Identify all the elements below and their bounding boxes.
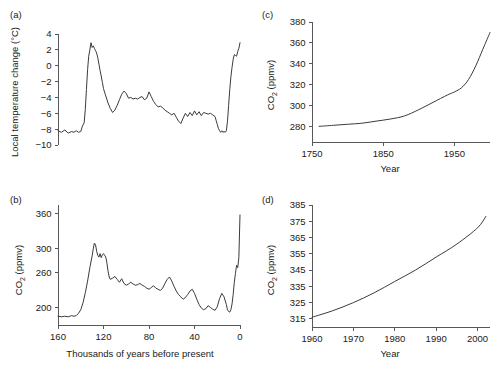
y-tick-label: 360 <box>290 37 306 48</box>
panel-c: (c) CO2 (ppmv) Year 280300320340360380 1… <box>250 0 499 185</box>
panel-d-y-axis-title: CO2 (ppmv) <box>265 245 278 295</box>
panel-c-x-axis-title: Year <box>380 163 399 174</box>
panel-a-label: (a) <box>10 9 22 20</box>
y-tick-label: −10 <box>35 139 51 150</box>
y-tick-label: 320 <box>290 79 306 90</box>
y-tick-label: −6 <box>41 108 52 119</box>
y-tick-label: 300 <box>290 100 306 111</box>
climate-figure: (a) Local temperature change (°C) 420−2−… <box>0 0 499 370</box>
panel-d: (d) CO2 (ppmv) Year 31532533534535536537… <box>250 185 499 370</box>
panel-a-tick-marks <box>55 34 59 145</box>
y-tick-label: 280 <box>290 121 306 132</box>
y-tick-label: −8 <box>41 124 52 135</box>
panel-d-chart: (d) CO2 (ppmv) Year 31532533534535536537… <box>250 185 499 370</box>
panel-c-y-tick-labels: 280300320340360380 <box>290 16 306 131</box>
y-tick-label: 365 <box>290 232 306 243</box>
y-tick-label: 345 <box>290 264 306 275</box>
x-tick-label: 1950 <box>444 148 465 159</box>
x-tick-label: 160 <box>50 331 66 342</box>
y-tick-label: 360 <box>36 208 52 219</box>
panel-c-tick-marks <box>309 22 455 146</box>
y-tick-label: −2 <box>41 76 52 87</box>
x-tick-label: 2000 <box>467 333 488 344</box>
panel-c-y-axis-title: CO2 (ppmv) <box>265 60 278 110</box>
panel-b-tick-marks <box>55 214 241 329</box>
x-tick-label: 40 <box>189 331 200 342</box>
x-tick-label: 120 <box>96 331 112 342</box>
y-tick-label: 260 <box>36 267 52 278</box>
x-tick-label: 1980 <box>384 333 405 344</box>
x-tick-label: 1850 <box>373 148 394 159</box>
panel-a-temperature-curve <box>58 43 240 133</box>
panel-c-label: (c) <box>262 9 273 20</box>
panel-d-tick-marks <box>309 205 478 331</box>
x-tick-label: 0 <box>237 331 242 342</box>
y-tick-label: 4 <box>46 28 51 39</box>
panel-c-axis-lines <box>312 22 490 142</box>
panel-b-x-axis-title: Thousands of years before present <box>66 348 214 359</box>
y-tick-label: 2 <box>46 44 51 55</box>
panel-b-chart: (b) CO2 (ppmv) Thousands of years before… <box>0 185 250 370</box>
panel-b-label: (b) <box>10 194 22 205</box>
y-tick-label: 325 <box>290 297 306 308</box>
y-tick-label: 315 <box>290 313 306 324</box>
panel-d-x-tick-labels: 19601970198019902000 <box>301 333 488 344</box>
y-tick-label: 0 <box>46 60 51 71</box>
y-tick-label: 300 <box>36 243 52 254</box>
y-tick-label: 375 <box>290 216 306 227</box>
panel-b-axis-lines <box>58 205 240 325</box>
y-tick-label: 355 <box>290 248 306 259</box>
y-tick-label: 385 <box>290 199 306 210</box>
panel-b: (b) CO2 (ppmv) Thousands of years before… <box>0 185 250 370</box>
panel-d-label: (d) <box>262 194 274 205</box>
panel-a-y-tick-labels: 420−2−4−6−8−10 <box>35 28 51 150</box>
panel-d-y-tick-labels: 315325335345355365375385 <box>290 199 306 324</box>
y-tick-label: 335 <box>290 281 306 292</box>
panel-a-chart: (a) Local temperature change (°C) 420−2−… <box>0 0 250 185</box>
panel-b-y-tick-labels: 200260300360 <box>36 208 52 313</box>
y-tick-label: 340 <box>290 58 306 69</box>
x-tick-label: 1990 <box>426 333 447 344</box>
panel-b-x-tick-labels: 16012080400 <box>50 331 243 342</box>
panel-b-y-axis-title: CO2 (ppmv) <box>13 245 26 295</box>
y-tick-label: 380 <box>290 16 306 27</box>
x-tick-label: 80 <box>144 331 155 342</box>
panel-d-co2-curve <box>312 216 486 317</box>
y-tick-label: −4 <box>41 92 52 103</box>
panel-b-co2-curve <box>58 215 240 317</box>
panel-c-x-tick-labels: 175018501950 <box>301 148 465 159</box>
panel-c-co2-curve <box>319 32 490 126</box>
panel-a-y-axis-title: Local temperature change (°C) <box>9 27 20 157</box>
panel-a: (a) Local temperature change (°C) 420−2−… <box>0 0 250 185</box>
x-tick-label: 1970 <box>343 333 364 344</box>
panel-d-x-axis-title: Year <box>380 348 399 359</box>
x-tick-label: 1750 <box>301 148 322 159</box>
x-tick-label: 1960 <box>301 333 322 344</box>
panel-c-chart: (c) CO2 (ppmv) Year 280300320340360380 1… <box>250 0 499 185</box>
y-tick-label: 200 <box>36 302 52 313</box>
